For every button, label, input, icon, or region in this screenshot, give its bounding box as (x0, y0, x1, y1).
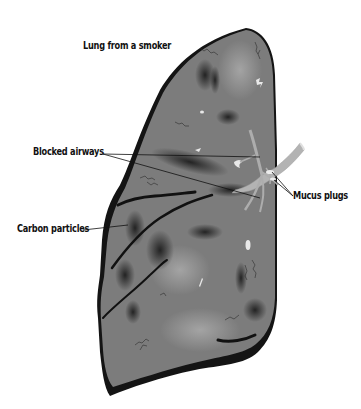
highlight (160, 308, 240, 352)
lung-diagram: Lung from a smoker Blocked airways Mucus… (0, 0, 361, 409)
mucus-plug (270, 177, 276, 180)
highlight (218, 40, 262, 100)
label-blocked-airways: Blocked airways (33, 146, 104, 157)
lung-illustration (0, 0, 361, 409)
figure-title: Lung from a smoker (83, 40, 171, 51)
label-mucus-plugs: Mucus plugs (293, 190, 348, 201)
label-carbon-particles: Carbon particles (17, 223, 89, 234)
